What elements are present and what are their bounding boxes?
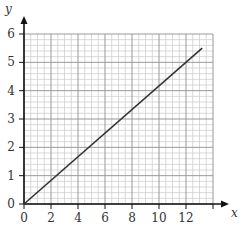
x-tick-label: 8 (128, 211, 136, 225)
x-axis-arrow-icon (221, 201, 229, 208)
x-tick-label: 10 (151, 211, 166, 225)
x-tick-label: 12 (178, 211, 193, 225)
x-tick-label: 6 (101, 211, 109, 225)
y-tick-label: 0 (7, 197, 15, 211)
y-tick-label: 4 (7, 84, 15, 98)
y-tick-label: 5 (7, 55, 15, 69)
y-tick-label: 6 (7, 27, 15, 41)
y-tick-label: 2 (7, 140, 15, 154)
y-tick-label: 3 (7, 112, 15, 126)
x-axis-label: x (231, 206, 238, 220)
x-tick-label: 0 (20, 211, 28, 225)
y-axis-label: y (4, 2, 12, 16)
x-tick-label: 4 (74, 211, 82, 225)
x-tick-label: 2 (47, 211, 55, 225)
line-chart: 0246810120123456 x y (0, 0, 241, 230)
y-axis-arrow-icon (21, 16, 28, 24)
y-tick-label: 1 (7, 169, 15, 183)
